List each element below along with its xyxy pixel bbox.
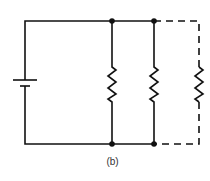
resistor-3: [195, 67, 203, 102]
node-bottom-1: [109, 141, 115, 147]
node-top-2: [151, 18, 157, 24]
figure-caption: (b): [0, 156, 210, 167]
left-wire-bottom: [25, 86, 112, 144]
resistor-1: [108, 21, 116, 144]
dashed-branch: [154, 21, 199, 67]
left-wire-top: [25, 21, 112, 80]
resistor-2: [150, 21, 158, 144]
node-bottom-2: [151, 141, 157, 147]
circuit-diagram: [0, 0, 210, 181]
dashed-branch-bottom: [154, 102, 199, 144]
node-top-1: [109, 18, 115, 24]
